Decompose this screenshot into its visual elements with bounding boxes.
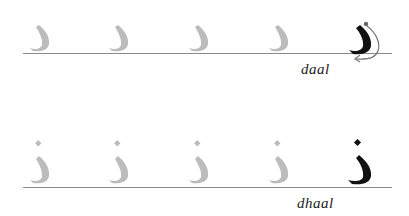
trace-letter-dhaal bbox=[106, 140, 136, 190]
model-letter-daal-with-stroke-arrow bbox=[344, 18, 386, 64]
practice-row-dhaal: dhaal bbox=[0, 108, 409, 216]
trace-letter-dhaal bbox=[27, 140, 57, 190]
letter-name-label: daal bbox=[301, 61, 330, 78]
trace-letter-daal bbox=[106, 22, 136, 56]
trace-letter-daal bbox=[27, 22, 57, 56]
trace-letter-daal bbox=[186, 22, 216, 56]
practice-row-daal: daal bbox=[0, 0, 409, 108]
trace-letter-dhaal bbox=[266, 140, 296, 190]
trace-letter-daal bbox=[266, 22, 296, 56]
trace-letter-dhaal bbox=[186, 140, 216, 190]
letter-name-label: dhaal bbox=[297, 195, 334, 212]
model-letter-dhaal bbox=[346, 139, 378, 191]
